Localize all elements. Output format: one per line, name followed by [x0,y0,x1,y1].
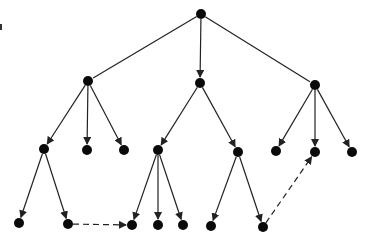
edge-C-C1 [161,87,197,145]
tree-node-C2a [206,221,216,231]
tree-node-R2 [310,147,320,157]
tree-node-C1a [127,220,137,230]
tree-node-C1b [153,220,163,230]
edge-C2-C2a [213,157,236,221]
edge-C1-C1c [160,155,182,220]
tree-node-L2 [82,145,92,155]
edge-L1-L1a [21,154,42,218]
edge-root-R [205,17,310,82]
tree-node-root [196,9,206,19]
edge-L-L2 [87,86,88,144]
tree-node-L [83,76,93,86]
tree-node-C1 [153,145,163,155]
tree-node-C [195,78,205,88]
nodes-layer [14,9,357,232]
tree-node-R3 [347,147,357,157]
dashed-edge-C2b-R2 [266,157,312,223]
tree-node-L1b [63,219,73,229]
edge-R-R3 [317,89,349,146]
edge-R-R1 [279,89,312,146]
edges-layer [21,17,349,225]
edge-C-C2 [202,87,235,146]
edge-L1-L1b [46,154,67,219]
edge-C1-C1a [134,155,156,220]
tree-node-R1 [271,146,281,156]
tree-node-L3 [119,145,129,155]
dashed-edge-L1b-C1a [73,224,126,225]
tree-node-L1a [14,218,24,228]
edge-root-L [93,17,197,78]
tree-node-R [310,80,320,90]
tree-node-C2b [258,222,268,232]
tree-node-L1 [39,144,49,154]
tree-node-C2 [233,147,243,157]
tree-diagram [0,0,374,240]
edge-root-C [200,19,201,77]
edge-L-L1 [47,85,85,144]
edge-C2-C2b [240,157,262,222]
tree-node-C1c [178,220,188,230]
edge-L-L3 [90,85,121,144]
